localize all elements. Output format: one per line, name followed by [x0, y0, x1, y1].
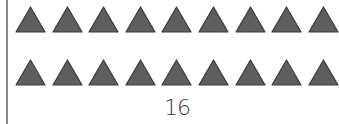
triangle-icon — [161, 59, 192, 86]
triangle-icon — [52, 59, 83, 86]
triangle-icon — [15, 6, 46, 33]
triangle-row-2 — [15, 59, 339, 86]
triangle-icon — [88, 59, 119, 86]
left-vertical-line — [6, 0, 8, 124]
count-label: 16 — [164, 96, 190, 120]
triangle-icon — [308, 59, 339, 86]
triangle-icon — [52, 6, 83, 33]
triangle-icon — [88, 6, 119, 33]
triangle-icon — [271, 59, 302, 86]
triangle-icon — [15, 59, 46, 86]
triangle-icon — [198, 59, 229, 86]
triangle-row-1 — [15, 6, 339, 33]
triangle-icon — [271, 6, 302, 33]
triangle-icon — [235, 6, 266, 33]
triangle-icon — [198, 6, 229, 33]
triangle-icon — [125, 6, 156, 33]
triangle-icon — [125, 59, 156, 86]
triangle-icon — [235, 59, 266, 86]
triangle-icon — [161, 6, 192, 33]
triangle-icon — [308, 6, 339, 33]
